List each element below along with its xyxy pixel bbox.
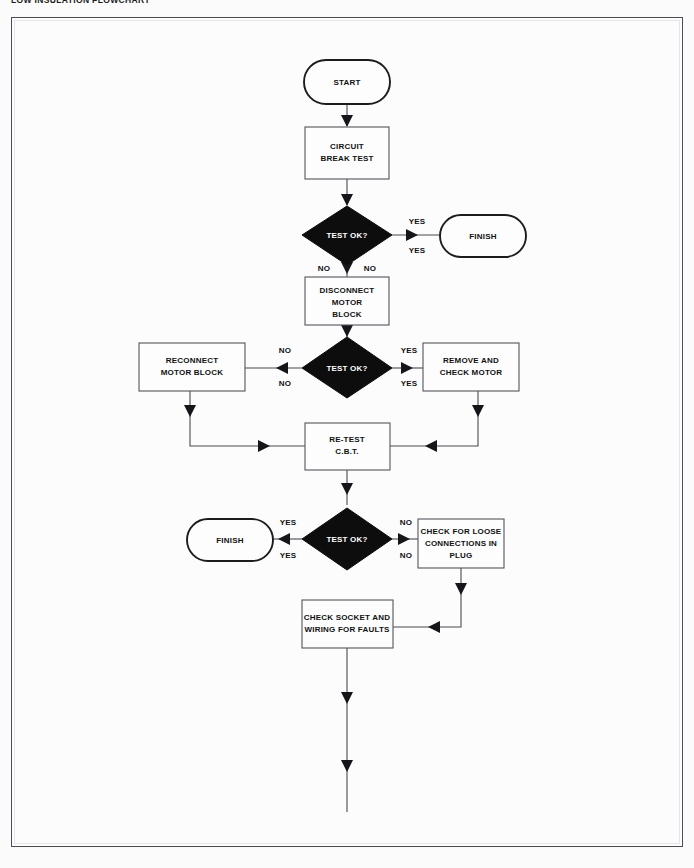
- edge-label-test1-yes-upper: YES: [409, 217, 426, 226]
- node-remove-check-motor[interactable]: REMOVE AND CHECK MOTOR: [423, 343, 519, 391]
- edge-label-test2-yes-upper: YES: [401, 346, 418, 355]
- edge-label-test2-yes-lower: YES: [401, 379, 418, 388]
- arrow-test2-remove: [401, 362, 413, 374]
- arrow-test3-loose: [398, 533, 410, 545]
- node-start-label: START: [333, 78, 360, 87]
- arrow-socket-down-1: [341, 692, 353, 704]
- node-disconnect-line1: DISCONNECT: [320, 286, 375, 295]
- edge-label-test3-yes-upper: YES: [280, 518, 297, 527]
- node-reconnect-line2: MOTOR BLOCK: [161, 368, 224, 377]
- edge-label-test1-no-left: NO: [318, 264, 330, 273]
- node-cbt-label-line2: BREAK TEST: [320, 154, 373, 163]
- edge-label-test3-no-lower: NO: [400, 551, 412, 560]
- node-remove-line2: CHECK MOTOR: [440, 368, 503, 377]
- reconnect-motor-block-box: [139, 343, 245, 391]
- node-test-ok-2-label: TEST OK?: [326, 364, 367, 373]
- arrow-start-cbt: [341, 115, 353, 127]
- arrow-test1-finish1: [406, 229, 418, 241]
- node-test-ok-2[interactable]: TEST OK?: [302, 337, 392, 398]
- node-reconnect-motor-block[interactable]: RECONNECT MOTOR BLOCK: [139, 343, 245, 391]
- node-retest-line2: C.B.T.: [335, 447, 358, 456]
- node-test-ok-1[interactable]: TEST OK?: [302, 206, 392, 265]
- node-finish-2-label: FINISH: [216, 536, 243, 545]
- page-canvas: LOW INSULATION FLOWCHART: [0, 0, 694, 868]
- node-test-ok-1-label: TEST OK?: [326, 231, 367, 240]
- node-disconnect-line2: MOTOR: [332, 298, 363, 307]
- edge-remove-retest: [390, 391, 478, 446]
- arrow-disconnect-test2: [341, 325, 353, 337]
- arrow-reconnect-retest: [258, 440, 270, 452]
- circuit-break-test-box: [305, 127, 389, 179]
- arrow-cbt-test1: [341, 194, 353, 206]
- arrow-retest-test3: [341, 483, 353, 495]
- edge-loose-socket: [393, 568, 461, 627]
- arrow-socket-down-2: [341, 760, 353, 772]
- node-disconnect-line3: BLOCK: [332, 310, 361, 319]
- arrow-loose-down: [455, 583, 467, 595]
- node-retest-cbt[interactable]: RE-TEST C.B.T.: [305, 423, 390, 470]
- edge-label-test1-no-right: NO: [364, 264, 376, 273]
- arrow-reconnect-down: [184, 405, 196, 417]
- node-test-ok-3-label: TEST OK?: [326, 535, 367, 544]
- node-test-ok-3[interactable]: TEST OK?: [302, 508, 392, 570]
- arrow-test2-reconnect: [276, 362, 288, 374]
- node-socket-line2: WIRING FOR FAULTS: [304, 625, 389, 634]
- flowchart-canvas: START CIRCUIT BREAK TEST TEST OK? FINISH…: [0, 0, 694, 868]
- arrow-loose-socket: [428, 621, 440, 633]
- node-remove-line1: REMOVE AND: [443, 356, 499, 365]
- arrow-remove-down: [472, 405, 484, 417]
- edge-label-test2-no-upper: NO: [279, 346, 291, 355]
- edge-label-test3-yes-lower: YES: [280, 551, 297, 560]
- node-loose-line1: CHECK FOR LOOSE: [421, 527, 502, 536]
- node-cbt-label-line1: CIRCUIT: [330, 142, 364, 151]
- edge-label-test2-no-lower: NO: [279, 379, 291, 388]
- edge-label-test1-yes-lower: YES: [409, 246, 426, 255]
- node-loose-line3: PLUG: [449, 551, 472, 560]
- node-check-socket-wiring[interactable]: CHECK SOCKET AND WIRING FOR FAULTS: [302, 600, 393, 648]
- node-finish-2[interactable]: FINISH: [187, 519, 273, 561]
- check-socket-wiring-box: [302, 600, 393, 648]
- node-retest-line1: RE-TEST: [329, 435, 365, 444]
- node-check-loose-connections[interactable]: CHECK FOR LOOSE CONNECTIONS IN PLUG: [418, 519, 504, 568]
- node-circuit-break-test[interactable]: CIRCUIT BREAK TEST: [305, 127, 389, 179]
- arrow-test3-finish2: [278, 533, 290, 545]
- node-finish-1-label: FINISH: [469, 232, 496, 241]
- edge-reconnect-retest: [190, 391, 305, 446]
- node-loose-line2: CONNECTIONS IN: [425, 539, 497, 548]
- node-disconnect-motor-block[interactable]: DISCONNECT MOTOR BLOCK: [305, 277, 389, 325]
- node-finish-1[interactable]: FINISH: [440, 215, 526, 257]
- edge-label-test3-no-upper: NO: [400, 518, 412, 527]
- node-reconnect-line1: RECONNECT: [166, 356, 218, 365]
- arrow-remove-retest: [425, 440, 437, 452]
- node-start[interactable]: START: [304, 60, 390, 104]
- node-socket-line1: CHECK SOCKET AND: [304, 613, 390, 622]
- remove-check-motor-box: [423, 343, 519, 391]
